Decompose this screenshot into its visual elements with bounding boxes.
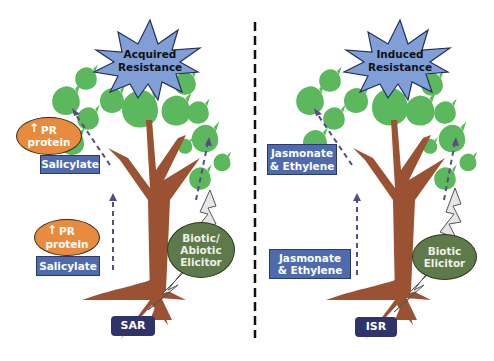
sar-lower-salicylate-box: Salicylate: [36, 256, 100, 276]
sar-upper-salicylate-box: Salicylate: [40, 155, 100, 174]
up-arrow-icon: ↑: [29, 122, 39, 136]
isr-star-label: Induced Resistance: [364, 48, 436, 73]
sar-upper-pr-protein-ellipse: ↑ PR protein: [16, 117, 82, 155]
sar-star-label: Acquired Resistance: [118, 48, 182, 73]
sar-elicitor-ellipse: Biotic/ Abiotic Elicitor: [167, 222, 235, 278]
sar-lower-pr-protein-ellipse: ↑ PR protein: [34, 219, 100, 256]
sar-bottom-label: SAR: [111, 316, 155, 336]
isr-bottom-label: ISR: [355, 317, 397, 337]
isr-elicitor-ellipse: Biotic Elicitor: [412, 234, 477, 280]
up-arrow-icon: ↑: [47, 224, 57, 238]
isr-upper-jasmonate-ethylene-box: Jasmonate & Ethylene: [267, 144, 337, 175]
isr-lower-jasmonate-ethylene-box: Jasmonate & Ethylene: [269, 249, 351, 279]
